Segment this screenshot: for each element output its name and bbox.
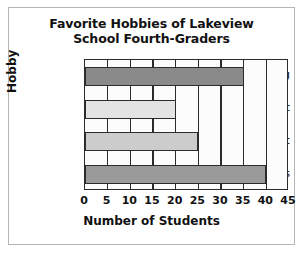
bar-row xyxy=(85,100,289,119)
bar-row xyxy=(85,132,289,151)
bar-row xyxy=(85,165,289,184)
x-axis-title: Number of Students xyxy=(9,214,294,228)
chart-title-line-1: Favorite Hobbies of Lakeview xyxy=(49,16,254,31)
chart-figure: Favorite Hobbies of Lakeview School Four… xyxy=(8,7,295,245)
bar-music xyxy=(85,132,198,151)
x-tick-label-45: 45 xyxy=(273,194,303,207)
y-axis-title: Hobby xyxy=(5,50,19,93)
bar-row xyxy=(85,67,289,86)
chart-title-line-2: School Fourth-Graders xyxy=(9,31,294,46)
bar-reading xyxy=(85,67,244,86)
chart-title: Favorite Hobbies of Lakeview School Four… xyxy=(9,16,294,46)
plot-area xyxy=(84,59,288,190)
bar-sports xyxy=(85,165,266,184)
x-axis-tick-labels: 051015202530354045 xyxy=(84,194,288,208)
bar-art xyxy=(85,100,176,119)
